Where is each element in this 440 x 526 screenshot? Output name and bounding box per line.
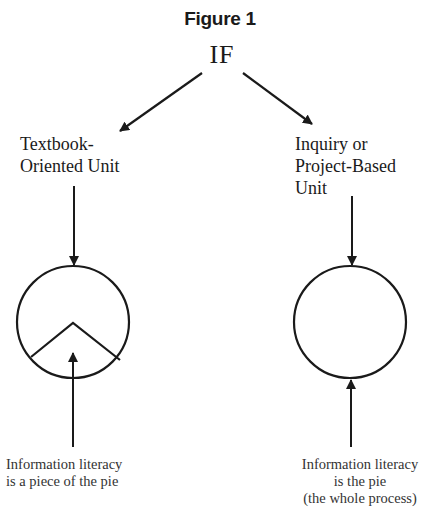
- inquiry-project-based-unit-label: Inquiry or Project-Based Unit: [295, 133, 396, 199]
- label-line: Project-Based: [295, 155, 396, 177]
- textbook-oriented-unit-label: Textbook- Oriented Unit: [20, 133, 119, 177]
- label-line: Inquiry or: [295, 133, 396, 155]
- caption-line: Information literacy: [285, 456, 435, 473]
- caption-line: is a piece of the pie: [6, 473, 156, 490]
- caption-line: (the whole process): [285, 490, 435, 507]
- pie-slice-wedge: [31, 323, 120, 360]
- piece-of-pie-caption: Information literacy is a piece of the p…: [6, 456, 156, 490]
- whole-pie-caption: Information literacy is the pie (the who…: [285, 456, 435, 507]
- whole-pie-circle: [294, 266, 406, 378]
- label-line: Unit: [295, 177, 396, 199]
- flow-diagram: [0, 0, 440, 526]
- arrow-to-textbook: [120, 73, 202, 131]
- caption-line: Information literacy: [6, 456, 156, 473]
- caption-line: is the pie: [285, 473, 435, 490]
- label-line: Oriented Unit: [20, 155, 119, 177]
- label-line: Textbook-: [20, 133, 119, 155]
- arrow-to-inquiry: [243, 73, 312, 124]
